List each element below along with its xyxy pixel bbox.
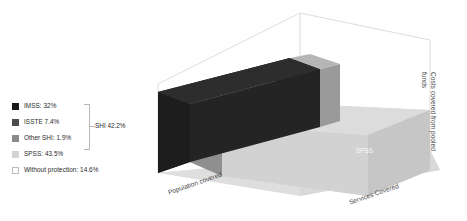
legend-swatch-imss — [12, 103, 19, 110]
block-label-spss: SPSS — [356, 147, 373, 154]
block-middle-sliver — [320, 64, 340, 127]
axis-label-costs-covered-from-pooled-funds: Costs covered from pooled funds — [420, 72, 437, 158]
legend-swatch-without-protection — [12, 167, 19, 174]
legend-item-other-shi: Other SHI: 1.9% — [12, 130, 142, 146]
legend-label-spss: SPSS: 43.5% — [24, 150, 63, 158]
legend-item-imss: IMSS: 32% — [12, 98, 142, 114]
legend-swatch-other-shi — [12, 135, 19, 142]
block-shi-front-top — [158, 92, 190, 173]
legend-label-other-shi: Other SHI: 1.9% — [24, 134, 71, 142]
legend-swatch-spss — [12, 151, 19, 158]
legend-bracket-label-shi: SHI 42.2% — [95, 122, 126, 129]
legend-swatch-isste — [12, 119, 19, 126]
legend-label-isste: ISSTE 7.4% — [24, 118, 59, 126]
legend-label-imss: IMSS: 32% — [24, 102, 56, 110]
legend-bracket-shi — [84, 104, 90, 150]
legend-item-without-protection: Without protection: 14.6% — [12, 162, 142, 178]
universal-coverage-figure: Population covered Services Covered Cost… — [0, 0, 467, 221]
legend-item-spss: SPSS: 43.5% — [12, 146, 142, 162]
legend-label-without-protection: Without protection: 14.6% — [24, 166, 98, 174]
legend: IMSS: 32% ISSTE 7.4% Other SHI: 1.9% SPS… — [12, 98, 142, 178]
